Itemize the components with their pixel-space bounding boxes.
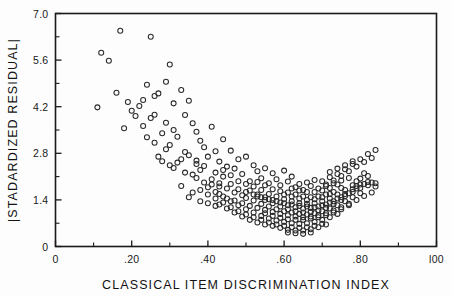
data-point [122, 126, 127, 131]
data-point [163, 147, 168, 152]
data-point [171, 101, 176, 106]
data-point [308, 230, 313, 235]
data-point [228, 173, 233, 178]
data-point [106, 58, 111, 63]
data-point [114, 90, 119, 95]
data-point [183, 170, 188, 175]
data-point [293, 217, 298, 222]
data-point [255, 169, 260, 174]
data-point [255, 179, 260, 184]
x-tick-label: .80 [353, 253, 369, 265]
data-point [228, 148, 233, 153]
data-point [362, 159, 367, 164]
data-point [236, 157, 241, 162]
data-point [202, 145, 207, 150]
data-point [217, 181, 222, 186]
data-point [95, 105, 100, 110]
data-point [209, 124, 214, 129]
data-point [213, 170, 218, 175]
data-point [251, 163, 256, 168]
data-point [198, 167, 203, 172]
chart-canvas: 0.20.40.60.80l00 01.42.84.25.67.0 CLASSI… [0, 0, 452, 297]
data-point [175, 134, 180, 139]
data-point [365, 151, 370, 156]
data-point [160, 131, 165, 136]
data-point [133, 114, 138, 119]
data-point [144, 135, 149, 140]
data-point [282, 168, 287, 173]
x-tick-label: l00 [429, 253, 444, 265]
data-point [312, 177, 317, 182]
data-point [125, 100, 130, 105]
data-point [209, 182, 214, 187]
x-axis-tick-labels: 0.20.40.60.80l00 [52, 253, 444, 265]
data-point [263, 211, 268, 216]
data-point [179, 88, 184, 93]
data-point [163, 120, 168, 125]
data-point [198, 187, 203, 192]
data-point [198, 138, 203, 143]
data-point [221, 174, 226, 179]
data-point [289, 174, 294, 179]
y-axis-tick-labels: 01.42.84.25.67.0 [33, 8, 49, 253]
data-point [362, 171, 367, 176]
data-point [244, 207, 249, 212]
data-point [327, 169, 332, 174]
data-point [263, 166, 268, 171]
data-point [141, 124, 146, 129]
data-point [228, 181, 233, 186]
data-point [266, 191, 271, 196]
y-tick-label: 2.8 [33, 147, 49, 159]
x-tick-label: 0 [52, 253, 58, 265]
x-axis-ticks [56, 241, 437, 247]
data-point [99, 50, 104, 55]
data-point [167, 163, 172, 168]
y-tick-label: 0 [42, 241, 48, 253]
data-point [183, 113, 188, 118]
data-point [205, 192, 210, 197]
data-point [156, 91, 161, 96]
data-point [167, 62, 172, 67]
data-points [95, 28, 378, 236]
x-tick-label: .60 [276, 253, 292, 265]
data-point [198, 199, 203, 204]
data-point [301, 231, 306, 236]
data-point [244, 154, 249, 159]
data-point [369, 155, 374, 160]
data-point [205, 154, 210, 159]
data-point [247, 217, 252, 222]
data-point [183, 149, 188, 154]
data-point [346, 175, 351, 180]
data-point [350, 195, 355, 200]
data-point [163, 79, 168, 84]
data-point [251, 184, 256, 189]
data-point [373, 184, 378, 189]
data-point [209, 177, 214, 182]
data-point [202, 163, 207, 168]
data-point [369, 190, 374, 195]
y-axis-title: |STADARDIZED RESIDUAL| [6, 38, 20, 222]
data-point [255, 205, 260, 210]
data-point [373, 147, 378, 152]
data-point [308, 183, 313, 188]
data-point [274, 177, 279, 182]
data-point [171, 128, 176, 133]
data-point [179, 183, 184, 188]
data-point [335, 166, 340, 171]
y-tick-label: 1.4 [33, 194, 49, 206]
data-point [285, 179, 290, 184]
data-point [148, 34, 153, 39]
x-tick-label: .20 [124, 253, 140, 265]
data-point [259, 187, 264, 192]
data-point [152, 140, 157, 145]
data-point [358, 191, 363, 196]
data-point [240, 193, 245, 198]
data-point [221, 167, 226, 172]
data-point [129, 108, 134, 113]
data-point [194, 158, 199, 163]
data-point [137, 104, 142, 109]
x-axis-title: CLASSICAL ITEM DISCRIMINATION INDEX [102, 278, 390, 292]
data-point [270, 187, 275, 192]
scatter-plot-figure: 0.20.40.60.80l00 01.42.84.25.67.0 CLASSI… [0, 0, 452, 297]
data-point [141, 98, 146, 103]
